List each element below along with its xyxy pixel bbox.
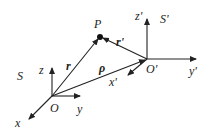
label-p: P bbox=[93, 17, 102, 31]
label-r: r bbox=[66, 59, 71, 73]
x-axis bbox=[29, 96, 52, 119]
point-p-dot bbox=[97, 34, 103, 40]
label-y: y bbox=[76, 102, 83, 116]
vector-r-prime bbox=[103, 38, 147, 59]
label-x-prime: x' bbox=[108, 75, 117, 89]
label-o-prime: O' bbox=[146, 62, 158, 76]
x-prime-axis bbox=[128, 59, 147, 75]
label-s-prime: S' bbox=[160, 12, 169, 26]
label-r-prime: r' bbox=[116, 35, 125, 49]
label-y-prime: y' bbox=[188, 64, 197, 78]
frame-s-prime-axes bbox=[128, 19, 196, 75]
label-rho: ρ bbox=[98, 61, 105, 75]
label-s: S bbox=[17, 69, 23, 83]
label-z-prime: z' bbox=[134, 9, 143, 23]
diagram-svg: P r ρ r' S z O y x z' S' O' y' x' bbox=[0, 0, 208, 132]
label-z: z bbox=[38, 63, 44, 77]
reference-frames-diagram: P r ρ r' S z O y x z' S' O' y' x' bbox=[0, 0, 208, 132]
label-x: x bbox=[14, 116, 21, 130]
label-o: O bbox=[50, 101, 59, 115]
